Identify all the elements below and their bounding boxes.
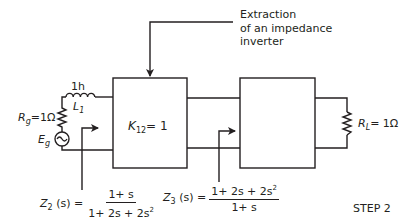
z2-numerator: 1+ s [106,188,135,203]
annotation-line: Extraction [240,8,332,22]
z2-arg: (s) = [56,197,83,210]
inductor-l1-icon [66,93,95,97]
inductor-value: 1h [71,80,85,93]
inverter-label: K12= 1 [128,120,168,137]
z3-num-base: 1+ 2s + 2s [211,185,272,198]
rl-value: = 1Ω [370,117,398,130]
inductor-sub: 1 [79,106,84,115]
z3-equation: Z3 (s) = 1+ 2s + 2s2 1+ s [163,182,279,214]
z2-symbol: Z [40,197,48,210]
rl-symbol: R [358,117,366,130]
k-symbol: K [128,119,136,133]
annotation-line: inverter [240,35,332,49]
z2-sub: 2 [48,203,53,212]
resistor-rl-icon [343,112,351,135]
z2-den-base: 1+ 2s + 2s [88,207,149,220]
rg-label: Rg=1Ω [18,111,55,128]
z3-num-exp: 2 [273,184,277,192]
z3-arg: (s) = [179,191,206,204]
rg-symbol: R [18,111,26,124]
voltage-source-eg-icon [55,132,69,146]
z2-arrow [82,128,98,190]
eg-label: Eg [38,133,50,150]
z3-lhs: Z3 (s) = [163,191,206,206]
eg-sub: g [45,139,50,148]
z3-arrow [219,131,235,182]
rl-label: RL= 1Ω [358,117,398,134]
source-wiring [62,97,113,150]
z2-den-exp: 2 [150,206,154,214]
step-label: STEP 2 [353,202,391,215]
rg-value: =1Ω [31,111,56,124]
z3-sub: 3 [171,197,176,206]
eg-symbol: E [38,133,45,146]
annotation-arrow [150,22,233,76]
inductor-label: L1 [73,100,84,117]
z2-lhs: Z2 (s) = [40,197,83,212]
z3-numerator: 1+ 2s + 2s2 [209,182,279,200]
interconnect-wires [187,98,240,148]
k-value: = 1 [146,119,168,133]
z3-symbol: Z [163,191,171,204]
z3-fraction: 1+ 2s + 2s2 1+ s [209,182,279,214]
z2-denominator: 1+ 2s + 2s2 [86,203,156,220]
z2-fraction: 1+ s 1+ 2s + 2s2 [86,188,156,220]
z3-denominator: 1+ s [229,200,258,214]
remaining-network-block [240,78,315,168]
annotation-line: of an impedance [240,22,332,36]
k-sub: 12 [136,126,146,135]
z2-equation: Z2 (s) = 1+ s 1+ 2s + 2s2 [40,188,156,220]
annotation-text: Extraction of an impedance inverter [240,8,332,49]
resistor-rg-icon [58,106,66,128]
